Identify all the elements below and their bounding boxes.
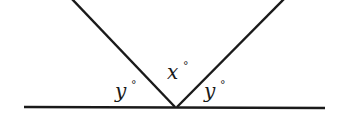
middle-angle-var: x xyxy=(167,60,178,84)
left-angle-degree: ° xyxy=(131,78,137,91)
right-ray xyxy=(177,0,285,107)
middle-angle-label: x ° xyxy=(167,59,189,84)
right-angle-label: y ° xyxy=(203,78,226,103)
right-angle-var: y xyxy=(203,79,216,103)
middle-angle-degree: ° xyxy=(183,59,189,72)
right-angle-degree: ° xyxy=(220,78,226,91)
angle-diagram: y ° x ° y ° xyxy=(0,0,343,121)
left-angle-var: y xyxy=(114,79,127,103)
left-angle-label: y ° xyxy=(114,78,137,103)
